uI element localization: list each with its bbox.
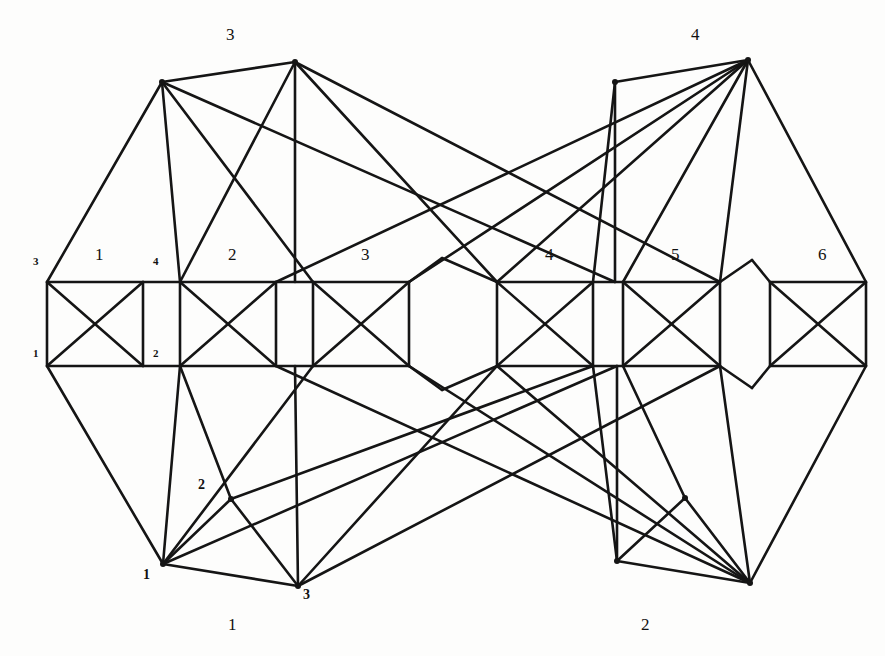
vertex-label-b2: 2 [198, 478, 205, 492]
box-label-3: 3 [361, 246, 370, 263]
edge-b1-box3bl [163, 366, 313, 564]
vertex-label-b1: 1 [143, 568, 150, 582]
vertex-dot-b2 [228, 496, 234, 502]
box-1-group [47, 282, 143, 366]
edge-b2-box4bl-long [231, 366, 593, 499]
corner-label-box1-tr: 4 [153, 256, 159, 267]
vertex-dot-b4 [614, 558, 620, 564]
corner-label-box1-bl: 1 [33, 348, 39, 359]
apex-label-top-right: 4 [691, 26, 700, 43]
edge-b4-box4br [593, 366, 617, 561]
vertex-dot-t4 [745, 57, 751, 63]
box-5-group [623, 282, 720, 366]
edge-t1-box3tl [162, 82, 313, 282]
edge-box6tr-t4 [748, 60, 866, 282]
edge-t1-box2tl [162, 82, 180, 282]
edge-t4-box5tl [623, 60, 748, 282]
bottom-group-label-1: 1 [228, 616, 237, 633]
vertex-dot-b3 [295, 583, 301, 589]
edge-b3-box4bl [298, 366, 497, 586]
box-6-group [770, 282, 866, 366]
edge-box1bl-b1 [47, 366, 163, 564]
edge-b4-b5 [617, 498, 685, 561]
box-4-group [497, 282, 593, 366]
vertex-dot-b5 [682, 495, 688, 501]
edge-b3-box3br [295, 366, 298, 586]
box-label-1: 1 [95, 246, 104, 263]
edge-b5-box5bl [623, 366, 685, 498]
corner-label-box1-br: 2 [153, 348, 159, 359]
edge-b6-box3br-long [409, 366, 750, 583]
bottom-left-cluster [47, 366, 720, 586]
connector-b5br-b6bl [720, 366, 752, 388]
graph-svg [0, 0, 885, 656]
vertex-label-b3: 3 [303, 588, 310, 602]
vertex-dot-b1 [160, 561, 166, 567]
corner-label-box1-tl: 3 [33, 256, 39, 267]
box-label-4: 4 [545, 246, 554, 263]
connector-b6tl-join [752, 260, 770, 282]
box-2-group [180, 282, 276, 366]
inter-box-connectors [143, 258, 770, 390]
box-label-6: 6 [818, 246, 827, 263]
edge-b2-box2bl [180, 366, 231, 499]
box-3-group [313, 282, 409, 366]
edge-b1-b4-long [163, 366, 617, 564]
apex-label-top-left: 3 [226, 26, 235, 43]
edge-b1-b2 [163, 499, 231, 564]
connector-centerbottom-b4bl [442, 366, 497, 390]
edge-b1-b3 [163, 564, 298, 586]
edge-b2-b3 [231, 499, 298, 586]
edge-t4-box5tr2 [720, 60, 748, 282]
connector-centertop-b4tl [442, 258, 497, 282]
edge-b1-box2bl [163, 366, 180, 564]
edge-t1-t2 [162, 62, 295, 82]
edge-b6-box2br-long [276, 366, 750, 583]
edge-t2-box4tl [295, 62, 497, 282]
box-label-5: 5 [671, 246, 680, 263]
edge-box6br-b6 [750, 366, 866, 583]
diagram-canvas: 1 2 3 4 5 6 3 4 1 2 3 4 1 2 3 1 2 [0, 0, 885, 656]
vertex-dot-t2 [292, 59, 298, 65]
edge-box1tl-t1 [47, 82, 162, 282]
edge-t4-box4tl [497, 60, 748, 282]
edge-b6-box4br-long [497, 366, 750, 583]
top-left-cluster [47, 62, 720, 282]
connector-b6bl-join [752, 366, 770, 388]
edge-b3-box5br-long [298, 366, 720, 586]
edge-t2-box2tl [180, 62, 295, 282]
vertex-dot-t3 [612, 79, 618, 85]
box-label-2: 2 [228, 246, 237, 263]
vertex-dot-t1 [159, 79, 165, 85]
edge-t4-box3tr-long [409, 60, 748, 282]
connector-b5tr-b6tl [720, 260, 752, 282]
bottom-group-label-2: 2 [641, 616, 650, 633]
vertex-dot-b6 [747, 580, 753, 586]
